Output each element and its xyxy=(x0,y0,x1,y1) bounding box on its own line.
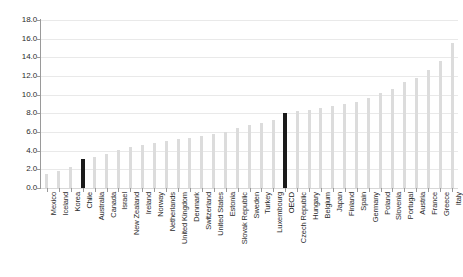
bar xyxy=(188,138,191,188)
x-axis-tick-label: Estonia xyxy=(229,192,237,216)
bar xyxy=(177,139,180,188)
bar xyxy=(319,108,322,188)
x-axis-tick-label: France xyxy=(431,192,439,215)
gridline xyxy=(41,20,458,21)
x-axis-tick-label: Hungary xyxy=(312,192,320,220)
gridline xyxy=(41,76,458,77)
bar xyxy=(129,147,132,188)
x-axis-tick-label: Netherlands xyxy=(169,192,177,231)
bar xyxy=(391,89,394,188)
x-axis-tick-label: Norway xyxy=(157,192,165,217)
x-axis-tick-label: Portugal xyxy=(407,192,415,219)
bar xyxy=(236,128,239,188)
y-axis-tick-label: 14.0 xyxy=(7,53,37,61)
x-axis-tick-label: Spain xyxy=(360,192,368,211)
x-axis-tick-label: Czech Republic xyxy=(300,192,308,243)
gridline xyxy=(41,57,458,58)
bar xyxy=(355,102,358,188)
x-axis-tick-label: Italy xyxy=(455,192,463,205)
gridline xyxy=(41,39,458,40)
x-axis-tick-label: Turkey xyxy=(264,192,272,214)
x-axis-tick-label: Belgium xyxy=(324,192,332,218)
x-axis-tick-label: Canada xyxy=(110,192,118,218)
bar xyxy=(57,171,60,188)
x-axis-tick-label: Israel xyxy=(121,192,129,210)
x-axis-tick-label: Mexico xyxy=(50,192,58,215)
bar xyxy=(200,136,203,188)
y-axis-tick-label: 0.0 xyxy=(7,184,37,192)
gridline xyxy=(41,113,458,114)
x-axis-tick-label: New Zealand xyxy=(133,192,141,235)
bar xyxy=(427,70,430,188)
x-axis-tick-label: United States xyxy=(217,192,225,236)
x-axis-tick-label: Japan xyxy=(336,192,344,212)
bar xyxy=(93,157,96,188)
x-axis-labels: MexicoIcelandKoreaChileAustraliaCanadaIs… xyxy=(41,192,458,277)
bar xyxy=(69,167,72,188)
bar xyxy=(367,98,370,188)
gridline xyxy=(41,95,458,96)
bar xyxy=(212,134,215,188)
x-axis-tick-label: Greece xyxy=(443,192,451,216)
x-axis-tick-label: Sweden xyxy=(253,192,261,219)
x-axis-tick-label: Luxembourg xyxy=(276,192,284,233)
bar xyxy=(224,132,227,188)
y-axis-tick-label: 12.0 xyxy=(7,72,37,80)
bar xyxy=(379,93,382,188)
bar xyxy=(117,150,120,188)
bar xyxy=(308,110,311,188)
bar xyxy=(403,82,406,188)
x-axis-tick-label: Poland xyxy=(384,192,392,215)
x-axis-tick-label: Ireland xyxy=(145,192,153,214)
y-axis-tick-label: 6.0 xyxy=(7,128,37,136)
bar xyxy=(451,43,454,188)
bar xyxy=(248,125,251,188)
bar xyxy=(272,120,275,188)
bar xyxy=(81,159,85,188)
y-axis-tick-label: 8.0 xyxy=(7,109,37,117)
y-axis-tick-label: 2.0 xyxy=(7,165,37,173)
x-axis-tick-label: OECD xyxy=(288,192,296,213)
y-axis-tick-label: 16.0 xyxy=(7,35,37,43)
bar xyxy=(331,106,334,188)
x-axis-tick-label: Switzerland xyxy=(205,192,213,230)
bar xyxy=(343,104,346,188)
bar xyxy=(439,61,442,188)
x-axis-tick-label: Korea xyxy=(74,192,82,212)
y-axis-tick-label: 4.0 xyxy=(7,147,37,155)
x-axis-tick-label: Chile xyxy=(86,192,94,209)
x-axis-tick-label: Germany xyxy=(372,192,380,222)
bar xyxy=(296,111,299,188)
x-axis-tick-label: Slovak Republic xyxy=(241,192,249,244)
y-axis-tick-label: 10.0 xyxy=(7,91,37,99)
bar xyxy=(45,174,48,188)
x-axis-tick-label: Austria xyxy=(419,192,427,215)
x-axis-tick-label: Finland xyxy=(348,192,356,216)
bar xyxy=(153,143,156,188)
bar xyxy=(260,123,263,188)
y-axis-tick-label: 18.0 xyxy=(7,16,37,24)
bar xyxy=(165,141,168,188)
y-axis-labels: 18.016.014.012.010.08.06.04.02.00.0 xyxy=(0,0,37,277)
x-axis-tick-label: Slovenia xyxy=(395,192,403,220)
x-axis-tick-label: Australia xyxy=(98,192,106,220)
bar xyxy=(105,154,108,188)
bar xyxy=(415,78,418,188)
x-axis-tick-label: Denmark xyxy=(193,192,201,222)
bar xyxy=(141,145,144,188)
bar xyxy=(283,113,287,188)
x-axis-tick-label: United Kingdom xyxy=(181,192,189,244)
plot-area xyxy=(41,20,458,188)
x-axis-tick-label: Iceland xyxy=(62,192,70,216)
